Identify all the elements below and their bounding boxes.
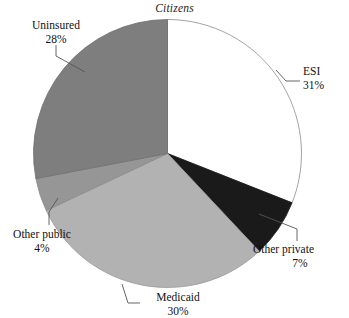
slice-label-medicaid-value: 30%	[140, 305, 216, 318]
slice-label-other-public: Other public 4%	[2, 228, 82, 255]
slice-label-esi: ESI 31%	[303, 65, 347, 92]
pie-chart-canvas	[0, 0, 349, 318]
slice-label-other-private: Other private 7%	[253, 243, 347, 270]
slice-label-other-public-name: Other public	[2, 228, 82, 242]
slice-label-other-public-value: 4%	[2, 242, 82, 256]
slice-label-uninsured: Uninsured 28%	[10, 19, 102, 46]
slice-label-esi-name: ESI	[303, 65, 347, 79]
slice-label-uninsured-name: Uninsured	[10, 19, 102, 33]
pie-chart-figure: Citizens Uninsured 28% ESI 31% Other pri…	[0, 0, 349, 318]
slice-label-other-private-value: 7%	[253, 257, 347, 271]
leader-line-medicaid	[122, 284, 140, 303]
slice-label-medicaid: Medicaid 30%	[140, 291, 216, 318]
leader-line-esi	[276, 70, 300, 81]
slice-label-uninsured-value: 28%	[10, 33, 102, 47]
slice-label-medicaid-name: Medicaid	[140, 291, 216, 305]
slice-label-esi-value: 31%	[303, 79, 347, 93]
slice-label-other-private-name: Other private	[253, 243, 347, 257]
